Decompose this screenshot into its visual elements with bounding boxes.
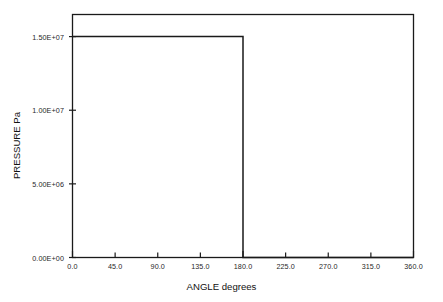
data-series-pressure [73, 37, 414, 258]
x-tick-label-6: 270.0 [319, 262, 338, 271]
plot-canvas [0, 0, 443, 302]
x-tick-label-4: 180.0 [234, 262, 253, 271]
x-axis-title: ANGLE degrees [0, 281, 443, 292]
x-tick-label-3: 135.0 [191, 262, 210, 271]
y-tick-label-0: 0.00E+00 [0, 253, 64, 262]
x-tick-label-1: 45.0 [108, 262, 122, 271]
x-tick-label-5: 225.0 [276, 262, 295, 271]
y-tick-label-3: 1.50E+07 [0, 32, 64, 41]
pressure-angle-chart: 0.00E+00 5.00E+06 1.00E+07 1.50E+07 0.0 … [0, 0, 443, 302]
x-tick-label-0: 0.0 [67, 262, 77, 271]
x-tick-label-7: 315.0 [362, 262, 381, 271]
x-tick-label-2: 90.0 [151, 262, 165, 271]
y-axis-title: PRESSURE Pa [11, 86, 22, 206]
x-tick-label-8: 360.0 [404, 262, 423, 271]
